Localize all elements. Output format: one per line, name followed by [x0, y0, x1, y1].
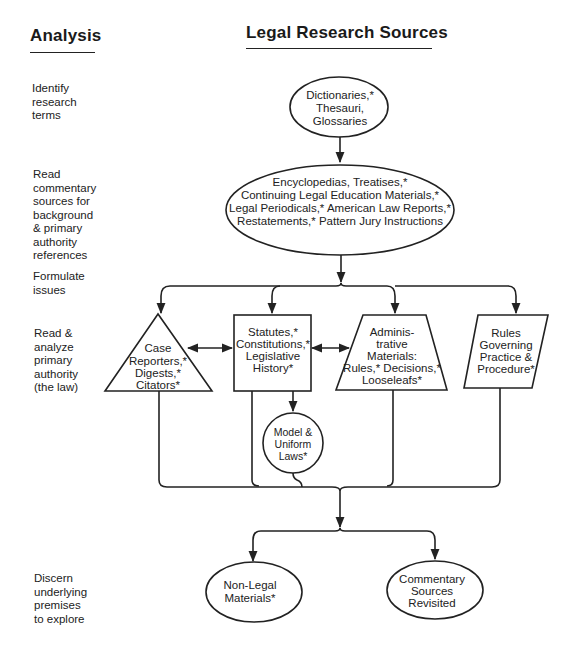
dictionaries-node: Dictionaries,* Thesauri, Glossaries [306, 89, 374, 127]
node-text: Glossaries [313, 115, 368, 127]
node-text: Practice & [480, 351, 533, 363]
branch-connector [341, 283, 395, 313]
commentary-node: Encyclopedias, Treatises,* Continuing Le… [229, 176, 451, 227]
node-text: Case [145, 342, 172, 354]
node-text: Non-Legal [223, 579, 276, 591]
node-text: Uniform [275, 438, 312, 450]
node-text: Continuing Legal Education Materials,* [241, 189, 440, 201]
node-text: Reporters,* [129, 355, 188, 367]
non-legal-node: Non-Legal Materials* [223, 579, 276, 604]
node-text: Legislative [246, 350, 300, 362]
node-text: trative [376, 338, 407, 350]
branch-connector [161, 283, 341, 313]
node-text: Materials* [224, 592, 276, 604]
merge-connector [293, 473, 302, 487]
node-text: Encyclopedias, Treatises,* [273, 176, 408, 188]
node-text: Adminis- [370, 326, 415, 338]
node-text: Commentary [399, 573, 465, 585]
commentary-revisited-node: Commentary Sources Revisited [399, 573, 465, 609]
node-text: Citators* [136, 379, 181, 391]
node-text: Looseleafs* [362, 374, 423, 386]
flowchart: Dictionaries,* Thesauri, Glossaries Ency… [0, 0, 579, 649]
merge-connector [332, 487, 348, 491]
rules-node: Rules Governing Practice & Procedure* [477, 327, 535, 375]
statutes-node: Statutes,* Constitutions,* Legislative H… [236, 326, 311, 374]
node-text: Procedure* [477, 363, 535, 375]
node-text: Rules,* Decisions,* [343, 362, 441, 374]
administrative-node: Adminis- trative Materials: Rules,* Deci… [343, 326, 441, 386]
node-text: Thesauri, [316, 102, 364, 114]
node-text: Statutes,* [248, 326, 298, 338]
node-text: Model & [274, 426, 313, 438]
node-text: Sources [411, 585, 453, 597]
merge-connector [348, 388, 500, 487]
node-text: Revisited [408, 597, 455, 609]
node-text: Materials: [367, 350, 417, 362]
node-text: History* [253, 362, 294, 374]
node-text: Digests,* [135, 367, 182, 379]
case-reporters-node: Case Reporters,* Digests,* Citators* [129, 342, 188, 391]
node-text: Constitutions,* [236, 338, 311, 350]
node-text: Restatements,* Pattern Jury Instructions [237, 215, 443, 227]
branch-connector [395, 286, 516, 313]
node-text: Laws* [279, 450, 308, 462]
node-text: Governing [479, 339, 532, 351]
node-text: Rules [491, 327, 521, 339]
merge-connector [252, 391, 259, 486]
node-text: Legal Periodicals,* American Law Reports… [229, 202, 451, 214]
branch-connector [340, 528, 435, 559]
merge-connector [387, 390, 393, 486]
node-text: Dictionaries,* [306, 89, 374, 101]
branch-connector [272, 286, 280, 313]
model-laws-node: Model & Uniform Laws* [274, 426, 313, 462]
branch-connector [253, 528, 340, 561]
